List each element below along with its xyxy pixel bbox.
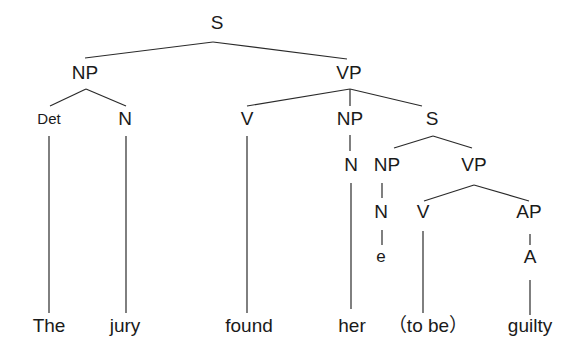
node-s-root: S: [211, 12, 224, 33]
node-np-subject: NP: [72, 62, 98, 83]
node-a: A: [524, 246, 537, 267]
node-np-empty: NP: [374, 154, 400, 175]
node-n-her: N: [344, 154, 358, 175]
node-vp-embedded: VP: [461, 154, 486, 175]
edge-vp2-v: [424, 185, 474, 201]
node-e-empty: e: [376, 247, 385, 266]
word-guilty: guilty: [508, 315, 553, 336]
node-np-object: NP: [337, 108, 363, 129]
edge-s-np: [85, 42, 213, 58]
word-to-be: （to be）: [388, 315, 468, 336]
edge-vp2-ap: [474, 185, 529, 201]
node-n-jury: N: [118, 108, 132, 129]
edge-vp-s: [350, 89, 422, 106]
tree-nodes: S NP VP Det N V NP S N NP VP N V AP e A: [37, 12, 541, 267]
tree-edges: [49, 42, 530, 315]
edge-np-n: [86, 89, 126, 106]
node-s-embedded: S: [426, 108, 439, 129]
node-n-empty: N: [374, 201, 388, 222]
node-v-found: V: [241, 108, 254, 129]
node-det: Det: [37, 110, 61, 127]
edge-s2-vp: [433, 136, 472, 148]
word-the: The: [33, 315, 66, 336]
edge-vp-v: [247, 89, 350, 106]
node-ap: AP: [516, 201, 541, 222]
word-found: found: [225, 315, 273, 336]
syntax-tree: S NP VP Det N V NP S N NP VP N V AP e A …: [0, 0, 588, 357]
edge-s-vp: [213, 42, 347, 59]
edge-s2-np: [394, 136, 433, 148]
edge-np-det: [50, 89, 86, 106]
word-jury: jury: [109, 315, 141, 336]
tree-words: The jury found her （to be） guilty: [33, 315, 553, 336]
node-v-tobe: V: [417, 201, 430, 222]
node-vp-main: VP: [336, 62, 361, 83]
word-her: her: [338, 315, 366, 336]
